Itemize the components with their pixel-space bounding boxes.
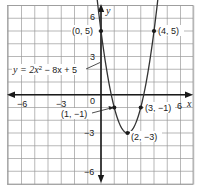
- x-tick-0: 0: [90, 96, 95, 106]
- point-label-3-neg1: (3, −1): [145, 103, 171, 113]
- x-tick-neg3: −3: [56, 99, 66, 109]
- data-point: [99, 29, 103, 33]
- data-point: [139, 105, 143, 109]
- point-label-1-neg1: (1, −1): [61, 109, 87, 119]
- x-axis-label: x: [186, 98, 192, 109]
- y-tick-6: 6: [90, 12, 95, 22]
- parabola-graph: y x −6 −3 0 6 6 3 −3 −6 (0, 5) (4, 5) (1…: [0, 0, 197, 187]
- equation-label: y = 2x2 − 8x + 5: [12, 64, 77, 75]
- point-label-2-neg3: (2, −3): [131, 132, 157, 142]
- y-tick-neg3: −3: [84, 128, 94, 138]
- point-label-0-5: (0, 5): [72, 26, 93, 36]
- data-point: [152, 29, 156, 33]
- point-label-4-5: (4, 5): [158, 26, 179, 36]
- y-tick-neg6: −6: [84, 167, 94, 177]
- data-point: [125, 131, 129, 135]
- y-tick-3: 3: [90, 52, 95, 62]
- y-axis-label: y: [105, 5, 111, 16]
- x-tick-6: 6: [177, 101, 182, 111]
- x-tick-neg6: −6: [17, 99, 27, 109]
